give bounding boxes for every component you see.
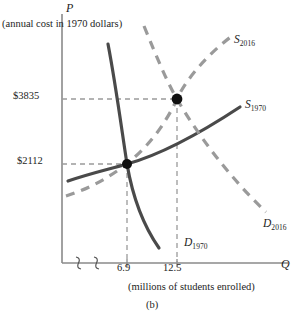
panel-label: (b) <box>146 299 158 311</box>
x-axis-symbol: Q <box>281 258 290 271</box>
equilibrium-point-1970 <box>122 159 132 169</box>
curve-subscript-d1970: 1970 <box>192 242 207 251</box>
curve-letter-s1970: S <box>245 98 251 110</box>
y-axis-caption: (annual cost in 1970 dollars) <box>2 18 58 30</box>
y-tick-label-2112: $2112 <box>17 155 43 167</box>
curve-d2016 <box>144 26 266 212</box>
curve-s2016 <box>66 36 232 196</box>
x-tick-label-12-5: 12.5 <box>163 262 181 274</box>
curve-letter-s2016: S <box>234 33 240 45</box>
x-axis-caption: (millions of students enrolled) <box>128 281 255 293</box>
figure-panel-b: (annual cost in 1970 dollars) P Q $3835 … <box>0 0 299 319</box>
curve-subscript-s1970: 1970 <box>251 104 266 113</box>
curve-subscript-s2016: 2016 <box>240 39 255 48</box>
curve-label-d1970: D1970 <box>184 236 208 249</box>
curve-d1970 <box>108 44 159 248</box>
y-tick-label-3835: $3835 <box>13 90 39 102</box>
curve-label-s1970: S1970 <box>245 98 266 111</box>
curve-label-d2016: D2016 <box>263 217 287 230</box>
curve-subscript-d2016: 2016 <box>271 223 286 232</box>
equilibrium-point-2016 <box>172 94 183 105</box>
y-axis-symbol: P <box>66 2 73 15</box>
curve-label-s2016: S2016 <box>234 33 255 46</box>
x-tick-label-6-9: 6.9 <box>117 262 130 274</box>
curve-s1970 <box>68 107 240 181</box>
